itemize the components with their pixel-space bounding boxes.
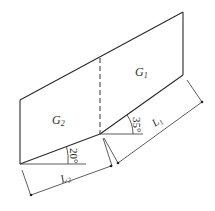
angle-arc-20 [67, 147, 69, 165]
top-edge [20, 12, 183, 100]
region-label-g2: G2 [52, 113, 65, 128]
dimension-label-l1: L1 [148, 113, 165, 131]
dimension-l1: L1 [104, 80, 203, 164]
base-slope-20 [20, 134, 100, 164]
angle-label-20: 20° [68, 148, 80, 163]
block-diagram: 20° 35° G2 G1 L2 L1 [0, 0, 215, 211]
extension-line-l2-left [22, 170, 31, 196]
dimension-tick-icon [117, 162, 120, 165]
extension-line-l1-left [104, 138, 118, 163]
block-outline [20, 12, 183, 164]
angle-label-35: 35° [131, 117, 143, 132]
dimension-tick-icon [110, 165, 113, 168]
region-label-g1: G1 [135, 65, 148, 80]
extension-line-l2-right [103, 138, 112, 166]
dimension-tick-icon [30, 194, 33, 197]
dimension-line-l1 [118, 102, 202, 163]
extension-line-l1-right [187, 80, 202, 102]
dimension-tick-icon [201, 101, 204, 104]
